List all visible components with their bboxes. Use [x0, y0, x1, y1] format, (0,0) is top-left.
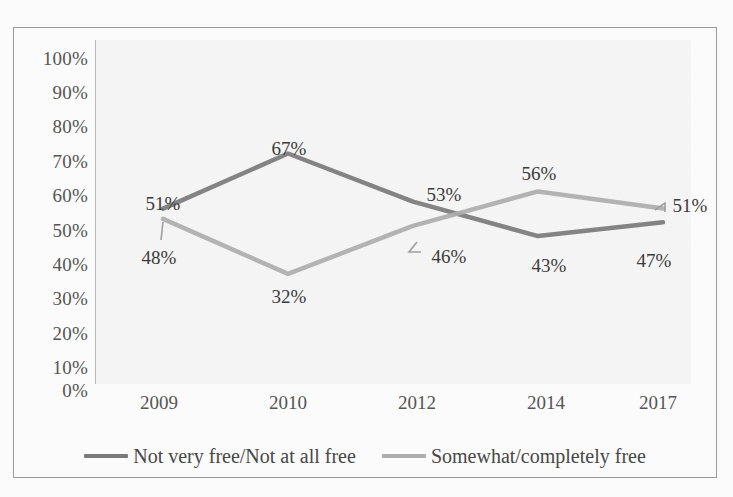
data-label-2009-not-free: 51% [146, 194, 181, 213]
data-label-2009-somewhat-free: 48% [142, 248, 177, 267]
y-tick-label-100: 100% [12, 49, 88, 68]
y-tick-label-90: 90% [12, 83, 88, 102]
data-label-2017-somewhat-free: 51% [673, 196, 708, 215]
data-label-2014-not-free: 43% [532, 256, 567, 275]
legend-label-not-free: Not very free/Not at all free [133, 445, 356, 467]
legend-item-not-free[interactable]: Not very free/Not at all free [84, 445, 356, 467]
y-tick-label-30: 30% [12, 289, 88, 308]
legend-swatch-icon-somewhat-free [382, 454, 426, 458]
y-tick-label-80: 80% [12, 117, 88, 136]
x-tick-label-2017: 2017 [639, 392, 677, 414]
x-tick-label-2009: 2009 [140, 392, 178, 414]
data-label-2012-not-free: 53% [427, 185, 462, 204]
x-tick-label-2014: 2014 [527, 392, 565, 414]
data-label-2017-not-free: 47% [637, 251, 672, 270]
data-label-2010-somewhat-free: 32% [272, 287, 307, 306]
y-tick-label-20: 20% [12, 324, 88, 343]
x-axis-tick-labels: 2009 2010 2012 2014 2017 [95, 392, 691, 420]
x-tick-label-2010: 2010 [269, 392, 307, 414]
x-tick-label-2012: 2012 [398, 392, 436, 414]
data-label-2010-not-free: 67% [272, 139, 307, 158]
legend-label-somewhat-free: Somewhat/completely free [431, 445, 646, 467]
legend-swatch-icon-not-free [84, 454, 128, 458]
y-axis-line [95, 40, 96, 384]
y-tick-label-70: 70% [12, 152, 88, 171]
y-axis-tick-labels: 100% 90% 80% 70% 60% 50% 40% 30% 20% 10%… [6, 0, 88, 497]
y-tick-label-60: 60% [12, 186, 88, 205]
y-tick-label-10: 10% [12, 358, 88, 377]
y-tick-label-40: 40% [12, 255, 88, 274]
y-tick-label-0: 0% [12, 381, 88, 400]
plot-area-background [95, 40, 691, 384]
data-label-2012-somewhat-free: 46% [432, 247, 467, 266]
data-label-2014-somewhat-free: 56% [522, 164, 557, 183]
chart-legend: Not very free/Not at all free Somewhat/c… [13, 440, 717, 472]
y-tick-label-50: 50% [12, 221, 88, 240]
legend-item-somewhat-free[interactable]: Somewhat/completely free [382, 445, 646, 467]
